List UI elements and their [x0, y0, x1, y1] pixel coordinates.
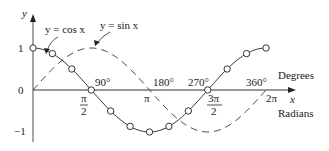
deg-tick-270: 270°	[188, 76, 209, 88]
sin-annotation: y = sin x	[100, 19, 139, 31]
y-axis-arrow-icon	[30, 14, 36, 22]
cos-data-point	[49, 50, 55, 56]
y-tick-1: 1	[18, 42, 24, 54]
rad-tick-3pi-half-num: 3π	[208, 92, 220, 104]
rad-tick-pi: π	[144, 92, 150, 104]
degrees-label: Degrees	[278, 69, 314, 81]
sin-annotation-arrow	[97, 32, 110, 43]
y-axis-label: y	[21, 7, 27, 19]
cos-data-point	[127, 123, 133, 129]
y-tick-neg1: −1	[14, 125, 26, 137]
cos-annotation: y = cos x	[45, 23, 86, 35]
trig-chart: y 1 0 −1 90° 180° 270° 360° π 2 π 3π 2 2…	[0, 0, 329, 151]
cos-data-point	[146, 129, 152, 135]
rad-tick-3pi-half-den: 2	[211, 105, 217, 117]
cos-data-point	[243, 50, 249, 56]
cos-data-point	[224, 66, 230, 72]
deg-tick-90: 90°	[95, 76, 110, 88]
x-axis-label: x	[289, 93, 295, 105]
rad-tick-pi-half-den: 2	[81, 105, 87, 117]
rad-tick-2pi: 2π	[266, 92, 278, 104]
deg-tick-180: 180°	[153, 76, 174, 88]
cos-data-point	[185, 108, 191, 114]
y-tick-0: 0	[18, 84, 24, 96]
cos-data-point	[107, 108, 113, 114]
cos-data-point	[88, 87, 94, 93]
cos-data-point	[166, 123, 172, 129]
rad-tick-pi-half-num: π	[81, 92, 87, 104]
cos-data-point	[69, 66, 75, 72]
radians-label: Radians	[278, 107, 313, 119]
cos-data-point	[263, 45, 269, 51]
deg-tick-360: 360°	[246, 76, 267, 88]
cos-data-point	[30, 45, 36, 51]
